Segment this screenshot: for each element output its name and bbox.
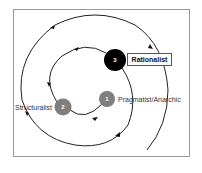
arc-3-outward xyxy=(21,15,168,150)
arrow-heads xyxy=(25,25,153,137)
rationalist-label-box: Rationalist xyxy=(127,53,172,66)
pragmatist-label: Pragmatist/Anarchic xyxy=(118,96,181,103)
structuralist-label: Structuralist xyxy=(15,104,52,111)
rationalist-label: Rationalist xyxy=(132,56,168,63)
spiral-path xyxy=(21,15,168,150)
spiral-diagram xyxy=(0,0,202,173)
arc-2-to-3 xyxy=(50,47,106,102)
arc-1-to-2 xyxy=(70,104,102,115)
arrow-icon xyxy=(115,132,120,137)
node-3-number: 3 xyxy=(110,57,120,63)
arrow-icon xyxy=(92,117,98,121)
node-2-number: 2 xyxy=(58,104,68,110)
arrow-icon xyxy=(74,47,79,51)
arrow-icon xyxy=(148,44,153,49)
node-1-number: 1 xyxy=(102,96,112,102)
